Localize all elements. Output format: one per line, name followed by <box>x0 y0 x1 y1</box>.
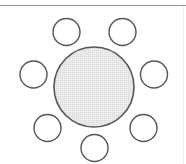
chair-2 <box>109 19 136 46</box>
seating-diagram <box>0 0 186 164</box>
chair-7 <box>81 135 108 162</box>
chair-4 <box>141 61 168 88</box>
round-table <box>54 47 134 127</box>
chair-5 <box>34 115 61 142</box>
chair-1 <box>53 19 80 46</box>
chair-3 <box>20 61 47 88</box>
chair-6 <box>130 115 157 142</box>
